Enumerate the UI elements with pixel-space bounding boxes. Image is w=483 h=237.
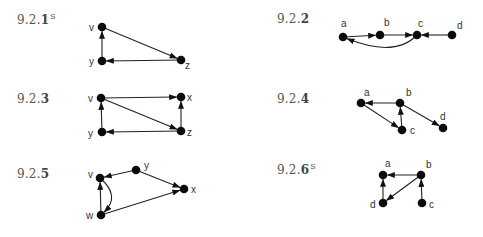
vertex-label: y bbox=[144, 160, 149, 171]
vertex-y bbox=[132, 166, 141, 175]
vertex-d bbox=[439, 124, 448, 133]
vertex-label: v bbox=[88, 93, 93, 104]
vertex-c bbox=[398, 126, 407, 135]
vertex-label: y bbox=[88, 128, 93, 139]
vertex-a bbox=[357, 99, 366, 108]
vertex-label: y bbox=[89, 56, 94, 67]
edge-v-to-z bbox=[102, 27, 177, 58]
vertex-c bbox=[413, 31, 422, 40]
edge-y-to-v bbox=[101, 102, 102, 132]
vertex-label: a bbox=[385, 158, 391, 169]
vertex-a bbox=[379, 171, 388, 180]
vertex-label: c bbox=[418, 18, 423, 29]
edge-v-to-w bbox=[100, 178, 112, 212]
vertex-label: c bbox=[429, 199, 434, 210]
edge-w-to-v bbox=[100, 182, 101, 215]
vertex-a bbox=[339, 33, 348, 42]
vertex-d bbox=[448, 31, 457, 40]
graph-9-2-4: abcd bbox=[357, 87, 448, 136]
edge-z-to-y bbox=[106, 131, 181, 132]
edge-w-to-x bbox=[101, 190, 180, 215]
graph-9-2-3: vxyz bbox=[88, 92, 192, 139]
vertex-label: x bbox=[191, 184, 196, 195]
vertex-x bbox=[177, 93, 186, 102]
vertex-y bbox=[98, 128, 107, 137]
vertex-x bbox=[180, 185, 189, 194]
vertex-label: x bbox=[187, 92, 192, 103]
vertex-label: v bbox=[88, 169, 93, 180]
vertex-b bbox=[396, 99, 405, 108]
vertex-label: v bbox=[89, 22, 94, 33]
edge-v-to-x bbox=[101, 97, 177, 98]
vertex-w bbox=[97, 211, 106, 220]
vertex-label: d bbox=[440, 111, 446, 122]
vertex-c bbox=[418, 199, 427, 208]
vertex-y bbox=[98, 57, 107, 66]
vertex-label: a bbox=[341, 18, 347, 29]
graph-9-2-2: abcd bbox=[339, 17, 463, 47]
vertex-label: b bbox=[426, 159, 432, 170]
edge-y-to-v bbox=[104, 170, 136, 177]
vertex-label: d bbox=[457, 20, 463, 31]
edge-y-to-x bbox=[136, 170, 180, 187]
vertex-v bbox=[96, 174, 105, 183]
vertex-v bbox=[97, 94, 106, 103]
edge-v-to-z bbox=[101, 98, 177, 129]
graph-9-2-1: vyz bbox=[89, 22, 190, 71]
graph-9-2-5: vyxw bbox=[85, 160, 196, 221]
vertex-label: c bbox=[410, 125, 415, 136]
edge-z-to-y bbox=[106, 60, 181, 61]
vertex-label: w bbox=[85, 210, 94, 221]
vertex-z bbox=[177, 127, 186, 136]
edge-b-to-d bbox=[400, 103, 439, 126]
vertex-label: d bbox=[370, 199, 376, 210]
vertex-label: a bbox=[364, 87, 370, 98]
vertex-label: z bbox=[187, 127, 192, 138]
vertex-z bbox=[177, 56, 186, 65]
vertex-label: b bbox=[384, 17, 390, 28]
edge-b-to-d bbox=[386, 175, 421, 200]
edge-a-to-b bbox=[343, 35, 376, 37]
vertex-v bbox=[98, 23, 107, 32]
graph-9-2-6: abdc bbox=[370, 158, 434, 210]
edge-a-to-c bbox=[361, 103, 398, 128]
directed-graphs: vyzabcdvxyzabcdvyxwabdc bbox=[0, 0, 483, 237]
vertex-b bbox=[376, 31, 385, 40]
vertex-label: z bbox=[185, 60, 190, 71]
vertex-b bbox=[417, 171, 426, 180]
vertex-label: b bbox=[406, 87, 412, 98]
vertex-d bbox=[379, 199, 388, 208]
